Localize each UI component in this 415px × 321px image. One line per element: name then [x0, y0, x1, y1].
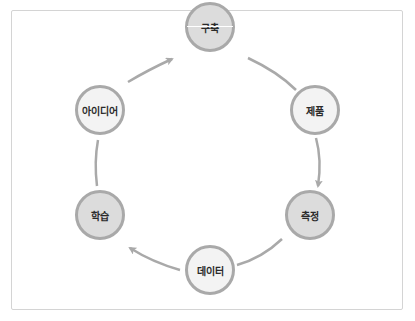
edge-data-learn	[130, 248, 180, 270]
edge-idea-build	[128, 59, 172, 82]
node-idea-label: 아이디어	[82, 103, 118, 118]
node-product-label: 제품	[306, 103, 324, 118]
edge-product-measure	[316, 138, 320, 186]
node-data: 데이터	[185, 245, 235, 295]
edge-build-product	[248, 58, 296, 90]
node-learn-label: 학습	[91, 208, 109, 223]
highlight-line	[187, 26, 233, 27]
node-measure: 측정	[285, 190, 335, 240]
edge-measure-data	[237, 239, 282, 265]
node-measure-label: 측정	[301, 208, 319, 223]
node-product: 제품	[290, 85, 340, 135]
node-idea: 아이디어	[75, 85, 125, 135]
node-learn: 학습	[75, 190, 125, 240]
node-data-label: 데이터	[197, 263, 224, 278]
node-build: 구축	[185, 2, 235, 52]
edge-learn-idea	[96, 140, 98, 186]
node-build-label: 구축	[201, 20, 219, 35]
